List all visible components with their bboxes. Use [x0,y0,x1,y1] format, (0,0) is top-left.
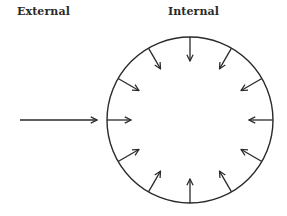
internal-arrow [220,48,232,69]
internal-force-arrows [107,37,273,203]
internal-arrow [241,150,262,162]
internal-arrow [149,171,161,192]
internal-arrow [118,79,139,91]
internal-arrow [220,171,232,192]
internal-arrow [241,79,262,91]
internal-arrow [149,48,161,69]
boundary-circle [107,37,273,203]
internal-arrow [118,150,139,162]
force-diagram [0,0,287,216]
